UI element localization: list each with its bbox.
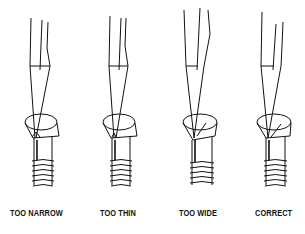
panel-too-narrow	[18, 0, 88, 200]
panel-too-thin	[96, 0, 166, 200]
caption-correct: CORRECT	[255, 207, 292, 218]
screwdriver-too-wide-icon	[172, 0, 242, 200]
caption-too-wide: TOO WIDE	[179, 207, 217, 218]
panel-too-wide	[172, 0, 242, 200]
screwdriver-too-thin-icon	[96, 0, 166, 200]
caption-too-thin: TOO THIN	[100, 207, 136, 218]
panel-correct	[248, 0, 305, 200]
caption-too-narrow: TOO NARROW	[10, 207, 63, 218]
screwdriver-correct-icon	[248, 0, 305, 200]
screwdriver-too-narrow-icon	[18, 0, 88, 200]
